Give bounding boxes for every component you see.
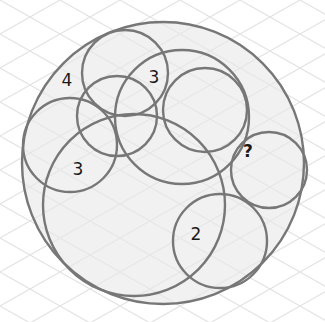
circle-puzzle: 433?2	[0, 0, 325, 322]
region-count-label: 3	[149, 67, 160, 87]
region-count-label: 4	[62, 70, 73, 90]
region-count-label: 2	[191, 224, 202, 244]
unknown-value-label: ?	[243, 141, 253, 161]
region-count-label: 3	[73, 159, 84, 179]
